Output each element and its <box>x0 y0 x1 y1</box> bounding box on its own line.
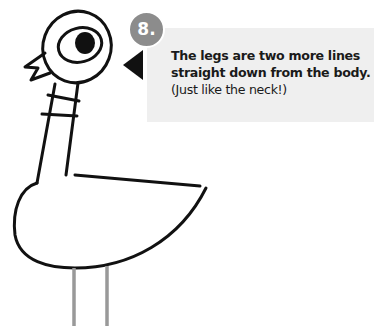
eye-pupil <box>75 32 95 54</box>
neck-right <box>66 83 78 175</box>
instruction-note: (Just like the neck!) <box>171 81 374 98</box>
step-number-badge: 8. <box>128 11 165 48</box>
body-outline <box>14 183 206 268</box>
pointer-arrow-icon <box>123 50 143 80</box>
wing-line <box>75 175 200 186</box>
instruction-bold-line-1: The legs are two more lines <box>171 47 374 64</box>
neck-left <box>37 84 55 183</box>
instruction-text: The legs are two more lines straight dow… <box>171 47 374 98</box>
instruction-bold-line-2: straight down from the body. <box>171 64 374 81</box>
neck-stripe-2 <box>42 114 77 116</box>
